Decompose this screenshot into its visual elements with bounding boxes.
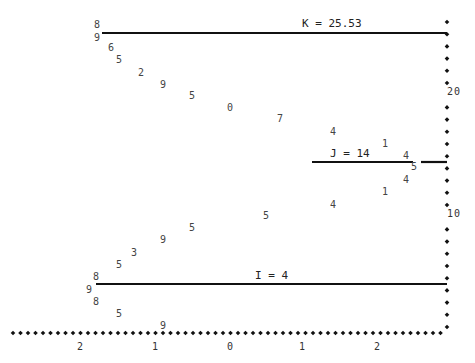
diamond-marker-icon	[408, 331, 413, 336]
data-point-digit: 9	[160, 234, 166, 245]
diamond-marker-icon	[78, 331, 83, 336]
data-point-digit: 4	[330, 126, 336, 137]
y-tick-labels: 2010	[447, 86, 461, 219]
diamond-marker-icon	[341, 331, 346, 336]
diamond-marker-icon	[348, 331, 353, 336]
data-point-digit: 5	[116, 54, 122, 65]
x-tick-label: 2	[77, 341, 83, 352]
diamond-marker-icon	[431, 331, 436, 336]
diamond-marker-icon	[18, 331, 23, 336]
diamond-marker-icon	[116, 331, 121, 336]
diamond-marker-icon	[445, 313, 450, 318]
y-axis-diamonds	[445, 20, 450, 330]
diamond-marker-icon	[445, 203, 450, 208]
diamond-marker-icon	[221, 331, 226, 336]
diamond-marker-icon	[146, 331, 151, 336]
diamond-marker-icon	[33, 331, 38, 336]
diamond-marker-icon	[386, 331, 391, 336]
diamond-marker-icon	[445, 81, 450, 86]
data-point-digit: 8	[93, 296, 99, 307]
reference-label-j: J = 14	[330, 147, 370, 160]
diamond-marker-icon	[445, 20, 450, 25]
diamond-marker-icon	[445, 154, 450, 159]
data-point-digit: 5	[189, 90, 195, 101]
diamond-marker-icon	[445, 227, 450, 232]
data-point-digit: 4	[330, 199, 336, 210]
x-tick-labels: 21012	[77, 341, 380, 352]
diamond-marker-icon	[176, 331, 181, 336]
data-point-digit: 5	[189, 222, 195, 233]
diamond-marker-icon	[363, 331, 368, 336]
diamond-marker-icon	[445, 264, 450, 269]
diamond-marker-icon	[445, 178, 450, 183]
y-tick-label: 10	[447, 208, 461, 219]
diamond-marker-icon	[71, 331, 76, 336]
diamond-marker-icon	[56, 331, 61, 336]
diamond-marker-icon	[445, 288, 450, 293]
diamond-marker-icon	[416, 331, 421, 336]
diamond-marker-icon	[333, 331, 338, 336]
data-point-digit: 5	[263, 210, 269, 221]
diamond-marker-icon	[445, 252, 450, 257]
diamond-marker-icon	[445, 117, 450, 122]
y-tick-label: 20	[447, 86, 461, 97]
diamond-marker-icon	[108, 331, 113, 336]
diamond-marker-icon	[445, 44, 450, 49]
diamond-marker-icon	[168, 331, 173, 336]
diamond-marker-icon	[243, 331, 248, 336]
diamond-marker-icon	[198, 331, 203, 336]
diamond-marker-icon	[445, 239, 450, 244]
data-point-digit: 5	[411, 161, 417, 172]
diamond-marker-icon	[281, 331, 286, 336]
diamond-marker-icon	[131, 331, 136, 336]
x-tick-label: 0	[227, 341, 233, 352]
diamond-marker-icon	[266, 331, 271, 336]
diamond-marker-icon	[326, 331, 331, 336]
x-tick-label: 1	[299, 341, 305, 352]
diamond-marker-icon	[288, 331, 293, 336]
data-point-digit: 5	[116, 308, 122, 319]
data-point-digit: 1	[382, 186, 388, 197]
data-point-digit: 9	[94, 32, 100, 43]
diamond-marker-icon	[296, 331, 301, 336]
diamond-marker-icon	[318, 331, 323, 336]
diamond-marker-icon	[378, 331, 383, 336]
reference-label-k: K = 25.53	[302, 17, 362, 30]
diamond-marker-icon	[258, 331, 263, 336]
diamond-marker-icon	[445, 325, 450, 330]
diamond-marker-icon	[153, 331, 158, 336]
diamond-marker-icon	[48, 331, 53, 336]
diamond-marker-icon	[393, 331, 398, 336]
x-axis-diamonds	[11, 331, 443, 336]
diamond-marker-icon	[445, 105, 450, 110]
data-point-digit: 4	[403, 150, 409, 161]
data-point-digit: 3	[131, 247, 137, 258]
diamond-marker-icon	[445, 191, 450, 196]
diamond-marker-icon	[228, 331, 233, 336]
diamond-marker-icon	[101, 331, 106, 336]
diamond-marker-icon	[63, 331, 68, 336]
reference-lines: K = 25.53J = 14I = 4	[96, 17, 447, 284]
data-point-digit: 5	[116, 259, 122, 270]
data-point-digit: 9	[160, 320, 166, 331]
diamond-marker-icon	[191, 331, 196, 336]
diamond-marker-icon	[26, 331, 31, 336]
diamond-marker-icon	[93, 331, 98, 336]
data-point-digit: 7	[277, 113, 283, 124]
diamond-marker-icon	[438, 331, 443, 336]
data-point-digit: 2	[138, 67, 144, 78]
diamond-marker-icon	[161, 331, 166, 336]
diamond-marker-icon	[445, 300, 450, 305]
diamond-marker-icon	[445, 56, 450, 61]
chart-plot: K = 25.53J = 14I = 4 8965295074145414559…	[0, 0, 475, 363]
diamond-marker-icon	[273, 331, 278, 336]
data-point-digit: 8	[94, 19, 100, 30]
x-tick-label: 2	[374, 341, 380, 352]
x-tick-label: 1	[152, 341, 158, 352]
reference-label-i: I = 4	[255, 269, 288, 282]
diamond-marker-icon	[445, 276, 450, 281]
diamond-marker-icon	[423, 331, 428, 336]
data-point-digit: 9	[86, 284, 92, 295]
diamond-marker-icon	[445, 69, 450, 74]
diamond-marker-icon	[445, 142, 450, 147]
